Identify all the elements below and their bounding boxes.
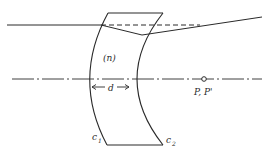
svg-text:2: 2	[171, 140, 176, 147]
svg-text:c: c	[92, 132, 97, 142]
surface-c1-label: c 1	[92, 132, 102, 144]
medium-label: (n)	[103, 53, 116, 63]
refracted-ray-inside	[101, 25, 142, 35]
thick-lens-diagram: (n) d P, P' c 1 c 2	[0, 0, 273, 154]
light-ray	[7, 17, 262, 35]
emergent-ray	[142, 17, 262, 35]
surface-c2-label: c 2	[166, 135, 176, 147]
svg-text:1: 1	[98, 137, 102, 144]
principal-point-marker	[202, 77, 207, 82]
principal-points-label: P, P'	[193, 87, 212, 97]
svg-text:c: c	[166, 135, 171, 145]
thickness-label: d	[108, 83, 114, 93]
